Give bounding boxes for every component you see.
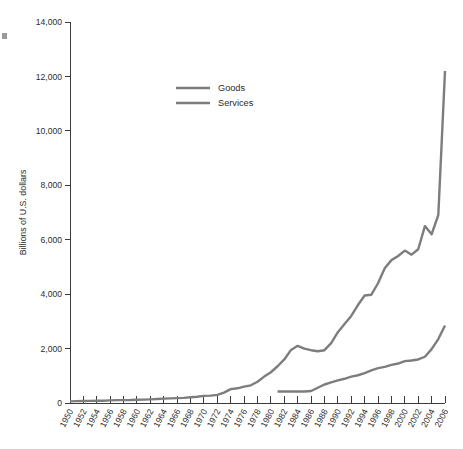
y-tick-label: 8,000	[40, 180, 62, 190]
y-tick-label: 12,000	[36, 72, 63, 82]
line-chart: 02,0004,0006,0008,00010,00012,00014,000 …	[0, 0, 463, 449]
y-tick-label: 14,000	[36, 17, 63, 27]
y-axis-title: Billions of U.S. dollars	[18, 169, 28, 255]
page-edge-artifact	[2, 33, 7, 39]
y-tick-label: 0	[57, 398, 62, 408]
chart-background	[0, 0, 463, 449]
y-tick-label: 6,000	[40, 235, 62, 245]
y-tick-label: 10,000	[36, 126, 63, 136]
y-axis-title-text: Billions of U.S. dollars	[18, 169, 28, 255]
y-tick-label: 4,000	[40, 289, 62, 299]
chart-figure: 02,0004,0006,0008,00010,00012,00014,000 …	[0, 0, 463, 449]
legend-label-services: Services	[218, 98, 254, 108]
y-tick-label: 2,000	[40, 344, 62, 354]
legend-label-goods: Goods	[218, 83, 245, 93]
